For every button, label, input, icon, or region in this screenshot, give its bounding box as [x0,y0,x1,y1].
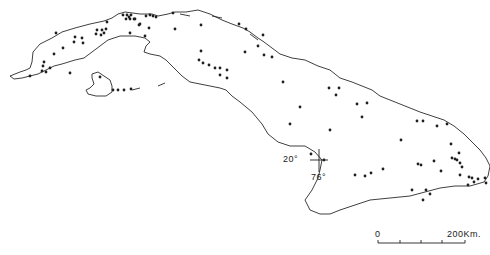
location-dot [148,27,151,30]
location-dot [440,170,443,173]
location-dot [74,36,77,39]
location-dot [456,159,459,162]
southern-keys [132,83,165,90]
location-dot [226,69,229,72]
location-dot [417,163,420,166]
location-dot [152,15,155,18]
location-dot [422,199,425,202]
location-dot [289,123,292,126]
location-dot [338,87,341,90]
location-dot [41,70,44,73]
location-dot [471,177,474,180]
location-dot [436,125,439,128]
scale-start-label: 0 [375,229,381,239]
location-dot [145,15,148,18]
location-dot [458,152,461,155]
location-dot [172,12,175,15]
location-dot [100,34,103,37]
latitude-label: 20° [283,154,298,164]
location-dot [461,166,464,169]
location-dot [257,45,260,48]
location-dot [420,164,423,167]
location-dot [400,139,403,142]
location-dot [485,182,488,185]
location-dot [310,153,313,156]
location-dot [103,32,106,35]
location-dot [366,102,369,105]
location-dot [450,143,453,146]
location-dot [411,189,414,192]
location-dot [53,53,56,56]
location-dot [202,62,205,65]
location-dot [129,18,132,21]
location-dot [335,94,338,97]
location-dot [263,54,266,57]
location-dot [122,14,125,17]
scale-end-label: 200Km. [447,229,481,239]
location-dot [29,75,32,78]
location-dot [364,175,367,178]
location-dot [245,28,248,31]
location-dot [129,32,132,35]
location-dot [69,72,72,75]
location-dot [144,35,147,38]
location-dot [106,21,109,24]
location-dot [96,29,99,32]
isla-de-la-juventud [86,72,112,96]
location-dot [425,189,428,192]
location-dot [484,177,487,180]
location-dot [451,157,454,160]
location-dots [29,12,488,202]
location-dot [101,29,104,32]
location-dot [200,24,203,27]
cuba-coastline [10,10,490,214]
cuba-map [0,0,490,255]
location-dot [73,41,76,44]
location-dot [130,14,133,17]
location-dot [42,65,45,68]
location-dot [382,168,385,171]
location-dot [244,51,247,54]
location-dot [328,87,331,90]
location-dot [282,81,285,84]
location-dot [198,59,201,62]
location-dot [473,181,476,184]
location-dot [125,18,128,21]
location-dot [429,193,432,196]
location-dot [433,160,436,163]
longitude-label: 76° [311,172,326,182]
location-dot [361,116,364,119]
location-dot [416,120,419,123]
location-dot [117,89,120,92]
location-dot [155,16,158,19]
location-dot [459,162,462,165]
location-dot [219,67,222,70]
location-dot [200,50,203,53]
location-dot [105,28,108,31]
location-dot [123,89,126,92]
location-dot [271,56,274,59]
location-dot [446,123,449,126]
location-dot [55,32,58,35]
scale-bar [378,240,465,243]
location-dot [149,14,152,17]
location-dot [99,76,102,79]
location-dot [422,120,425,123]
location-dot [174,28,177,31]
location-dot [126,14,129,17]
location-dot [130,88,133,91]
location-dot [354,174,357,177]
location-dot [356,103,359,106]
location-dot [95,33,98,36]
location-dot [459,174,462,177]
location-dot [468,176,471,179]
location-dot [370,172,373,175]
location-dot [82,42,85,45]
location-dot [467,184,470,187]
location-dot [299,106,302,109]
location-dot [133,18,136,21]
location-dot [226,77,229,80]
northern-keys [180,14,258,40]
location-dot [139,23,142,26]
location-dot [219,74,222,77]
